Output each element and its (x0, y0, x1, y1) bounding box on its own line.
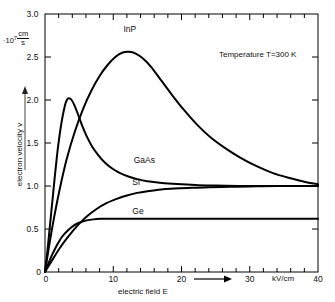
curve-label-Ge: Ge (132, 206, 143, 216)
y-tick-label: 0.5 (27, 225, 39, 234)
curve-label-Si: Si (132, 177, 140, 187)
y-tick-label: 1.5 (27, 139, 39, 148)
curve-label-InP: InP (123, 24, 136, 34)
y-axis-unit: ·107cms (3, 30, 29, 47)
x-tick-label: 10 (108, 275, 117, 284)
y-unit-mantissa: ·107 (3, 36, 17, 45)
x-axis-arrow (194, 276, 232, 283)
curve-Si (45, 186, 318, 272)
x-axis-unit: kV/cm (272, 275, 294, 283)
curve-InP (45, 52, 318, 272)
y-tick-label: 3.0 (27, 10, 39, 19)
y-unit-fraction: cms (17, 30, 29, 47)
data-curves (45, 52, 318, 272)
y-tick-label: 1.0 (27, 182, 39, 191)
x-tick-label: 20 (177, 275, 186, 284)
curve-Ge (45, 219, 318, 272)
y-axis-label: electron velocity v (15, 105, 24, 205)
y-tick-label: 0 (36, 268, 41, 277)
curve-label-GaAs: GaAs (134, 155, 155, 165)
y-tick-label: 2.5 (27, 53, 39, 62)
temperature-annotation: Temperature T=300 K (219, 50, 296, 59)
x-axis-label: electric field E (118, 287, 168, 296)
chart-figure (0, 0, 335, 302)
x-tick-label: 0 (44, 275, 49, 284)
y-tick-label: 2.0 (27, 96, 39, 105)
x-tick-label: 40 (313, 275, 322, 284)
x-tick-label: 30 (245, 275, 254, 284)
